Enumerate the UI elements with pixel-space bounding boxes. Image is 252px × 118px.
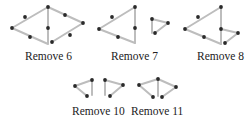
matchstick-head	[46, 26, 50, 30]
matchstick-head	[121, 83, 125, 87]
matchstick	[139, 79, 158, 85]
label-remove-8: Remove 8	[197, 50, 244, 62]
matchstick-head	[219, 5, 223, 9]
matchstick	[75, 86, 87, 96]
matchstick-head	[85, 94, 89, 98]
matchstick	[105, 80, 123, 85]
matchstick	[158, 79, 176, 87]
matchstick-head	[10, 26, 14, 30]
matchstick-head	[156, 77, 160, 81]
label-remove-6: Remove 6	[25, 50, 72, 62]
matchstick-head	[81, 21, 85, 25]
matchstick-head	[174, 85, 178, 89]
matchstick-head	[90, 78, 94, 82]
matchstick	[99, 7, 135, 29]
matchstick	[52, 23, 83, 42]
matchstick-head	[151, 95, 155, 99]
matchstick-head	[153, 31, 157, 35]
matchstick-head	[46, 5, 50, 9]
matchstick-head	[73, 84, 77, 88]
matchstick-head	[183, 27, 187, 31]
matchstick-head	[108, 94, 112, 98]
matchstick-head	[202, 35, 206, 39]
matchstick-head	[133, 5, 137, 9]
matchstick-head	[110, 15, 114, 19]
label-remove-10: Remove 10	[72, 105, 125, 117]
matchstick-head	[63, 13, 67, 17]
matchstick-head	[219, 27, 223, 31]
matchstick-head	[236, 31, 240, 35]
figure-remove-7	[97, 5, 170, 43]
matchstick-head	[116, 35, 120, 39]
matchstick	[185, 7, 221, 29]
matchstick-head	[23, 15, 27, 19]
matchstick-head	[28, 35, 32, 39]
figure-remove-6	[10, 5, 85, 44]
matchstick-head	[103, 78, 107, 82]
label-remove-11: Remove 11	[131, 105, 183, 117]
matchstick-head	[150, 17, 154, 21]
matchstick-head	[97, 27, 101, 31]
matchstick	[12, 7, 48, 28]
matchstick-head	[166, 21, 170, 25]
matchstick	[139, 85, 153, 97]
matchstick-head	[196, 15, 200, 19]
figure-remove-8	[183, 5, 240, 45]
matchstick	[155, 23, 168, 33]
matchstick	[221, 29, 238, 33]
figure-remove-10	[73, 78, 125, 98]
matchstick	[110, 85, 123, 96]
matchstick-head	[50, 40, 54, 44]
matchstick-head	[160, 95, 164, 99]
matchstick-head	[137, 83, 141, 87]
matchstick	[75, 80, 92, 86]
matchstick-head	[133, 26, 137, 30]
matchstick	[152, 19, 168, 23]
matchstick	[162, 87, 176, 97]
matchstick-head	[223, 41, 227, 45]
figure-remove-11	[137, 77, 178, 99]
matchstick	[225, 33, 238, 43]
label-remove-7: Remove 7	[111, 50, 158, 62]
matchstick-head	[68, 33, 72, 37]
